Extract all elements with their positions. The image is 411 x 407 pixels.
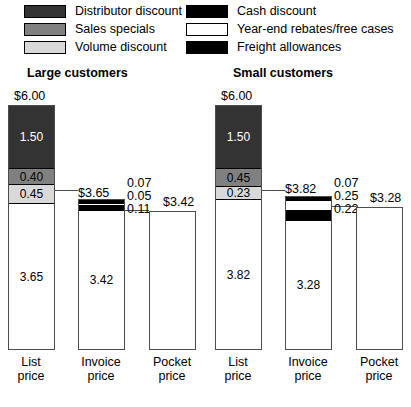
segment-small-distributor-discount: 1.50 [216, 106, 261, 168]
axis-label-large-list-price: List price [1, 355, 61, 383]
segment-large-distributor-discount: 1.50 [9, 106, 54, 168]
axis-label-line1: List [208, 355, 268, 369]
axis-label-line2: price [278, 369, 338, 383]
small-invoice-rebates-label: 0.25 [334, 190, 358, 203]
segment-small-invoice-base: 3.28 [286, 221, 331, 349]
group-title-small-customers: Small customers [233, 66, 333, 80]
axis-label-small-invoice-price: Invoice price [278, 355, 338, 383]
bar-small-pocket-price[interactable] [356, 207, 403, 350]
axis-label-line2: price [142, 369, 202, 383]
axis-label-line2: price [349, 369, 409, 383]
bar-small-list-price[interactable]: 1.50 0.45 0.23 3.82 [215, 105, 262, 350]
large-invoice-total-label: $3.65 [78, 187, 109, 200]
large-list-total-label: $6.00 [14, 90, 45, 103]
bar-small-invoice-price[interactable]: 3.28 [285, 196, 332, 350]
axis-label-line1: Pocket [142, 355, 202, 369]
axis-label-line2: price [1, 369, 61, 383]
segment-small-volume-discount: 0.23 [216, 187, 261, 200]
segment-small-list-base: 3.82 [216, 200, 261, 349]
segment-small-year-end-rebates [286, 200, 331, 211]
axis-label-line2: price [71, 369, 131, 383]
axis-label-line2: price [208, 369, 268, 383]
axis-label-large-invoice-price: Invoice price [71, 355, 131, 383]
segment-small-freight-allowances [286, 211, 331, 221]
small-invoice-cash-label: 0.07 [334, 177, 358, 190]
segment-small-pocket-base [357, 208, 402, 349]
waterfall-chart: Large customers Small customers $6.00 1.… [0, 0, 411, 407]
large-pocket-total-label: $3.42 [163, 196, 194, 209]
small-invoice-freight-label: 0.22 [334, 203, 358, 216]
axis-label-line1: Pocket [349, 355, 409, 369]
axis-label-small-list-price: List price [208, 355, 268, 383]
segment-large-sales-specials: 0.40 [9, 168, 54, 185]
bar-large-invoice-price[interactable]: 3.42 [78, 199, 125, 350]
axis-label-large-pocket-price: Pocket price [142, 355, 202, 383]
segment-large-list-base: 3.65 [9, 204, 54, 349]
bar-large-list-price[interactable]: 1.50 0.40 0.45 3.65 [8, 105, 55, 350]
small-invoice-total-label: $3.82 [285, 183, 316, 196]
axis-label-line1: Invoice [278, 355, 338, 369]
small-pocket-total-label: $3.28 [370, 192, 401, 205]
group-title-large-customers: Large customers [27, 66, 128, 80]
segment-large-invoice-base: 3.42 [79, 211, 124, 349]
axis-label-line1: List [1, 355, 61, 369]
axis-label-line1: Invoice [71, 355, 131, 369]
large-invoice-cash-label: 0.07 [127, 177, 151, 190]
segment-small-sales-specials: 0.45 [216, 168, 261, 187]
connector-small-list-to-invoice [262, 190, 285, 191]
large-invoice-freight-label: 0.11 [127, 203, 150, 216]
segment-large-pocket-base [150, 212, 195, 349]
connector-large-list-to-invoice [55, 190, 78, 191]
small-list-total-label: $6.00 [221, 90, 252, 103]
large-invoice-rebates-label: 0.05 [127, 190, 151, 203]
segment-large-volume-discount: 0.45 [9, 185, 54, 204]
axis-label-small-pocket-price: Pocket price [349, 355, 409, 383]
bar-large-pocket-price[interactable] [149, 211, 196, 350]
